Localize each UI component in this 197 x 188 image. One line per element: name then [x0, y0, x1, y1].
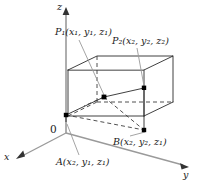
- label-p2: P₂(x₂, y₂, z₂): [112, 36, 169, 46]
- label-a: A(x₂, y₁, z₁): [56, 157, 110, 167]
- box-edge-bottom-right: [144, 102, 173, 116]
- point-marker-a: [64, 113, 68, 117]
- x-axis: [22, 133, 66, 156]
- point-markers: [64, 86, 146, 133]
- leader-a: [67, 124, 79, 155]
- label-y-axis: y: [183, 170, 188, 180]
- box-top-face: [68, 56, 173, 70]
- segment-a-b: [66, 115, 144, 130]
- z-axis-arrowhead: [63, 7, 70, 15]
- box-edge-bottom-back-left: [68, 102, 97, 116]
- label-z-axis: z: [57, 2, 62, 12]
- label-x-axis: x: [4, 152, 9, 162]
- segment-p1-b: [104, 97, 144, 130]
- point-marker-b: [142, 128, 146, 132]
- leader-p2: [137, 48, 144, 86]
- construction-lines: [66, 88, 144, 130]
- leader-p1: [79, 40, 104, 95]
- label-b: B(x₂, y₂, z₁): [113, 137, 167, 147]
- label-origin: 0: [50, 124, 57, 135]
- point-marker-p2: [142, 86, 146, 90]
- label-p1: P₁(x₁, y₁, z₁): [55, 27, 112, 37]
- segment-p1-p2: [104, 88, 144, 97]
- x-axis-arrowhead: [16, 151, 25, 159]
- point-marker-p1: [102, 95, 107, 100]
